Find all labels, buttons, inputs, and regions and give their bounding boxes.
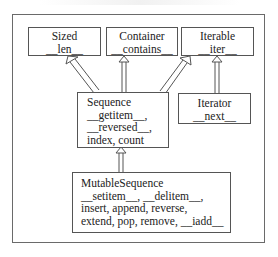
class-methods-line2: insert, append, reverse, [81, 202, 230, 215]
class-box-mutablesequence: MutableSequence __setitem__, __delitem__… [72, 172, 231, 233]
class-box-iterable: Iterable __iter__ [181, 27, 254, 56]
class-name: MutableSequence [81, 177, 230, 190]
class-methods: __contains__ [107, 43, 177, 56]
class-name: Container [107, 30, 177, 43]
class-methods: __next__ [179, 110, 250, 123]
class-name: Iterable [182, 30, 253, 43]
class-methods-line2: __reversed__, [87, 121, 168, 134]
arrow-mutablesequence-to-sequence [116, 147, 126, 172]
arrow-iterator-to-iterable [212, 56, 222, 93]
arrow-sequence-to-sized [66, 56, 99, 93]
class-methods: __iter__ [182, 43, 253, 56]
class-box-container: Container __contains__ [106, 27, 178, 56]
class-name: Iterator [179, 97, 250, 110]
class-methods-line3: index, count [87, 134, 168, 147]
class-methods-line3: extend, pop, remove, __iadd__ [81, 215, 230, 228]
class-name: Sequence [87, 96, 168, 109]
class-box-sequence: Sequence __getitem__, __reversed__, inde… [77, 92, 169, 148]
class-box-sized: Sized __len__ [28, 27, 101, 56]
arrow-sequence-to-iterable [160, 56, 191, 94]
class-methods: __len__ [29, 43, 100, 56]
class-name: Sized [29, 30, 100, 43]
class-box-iterator: Iterator __next__ [178, 93, 251, 124]
arrow-sequence-to-container [119, 56, 129, 92]
class-methods-line1: __setitem__, __delitem__, [81, 190, 230, 203]
class-methods-line1: __getitem__, [87, 109, 168, 122]
